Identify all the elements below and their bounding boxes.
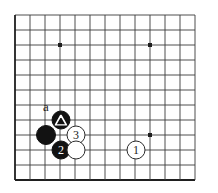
white-stone-plain <box>67 141 86 160</box>
white-stone-1: 1 <box>127 141 146 160</box>
star-point <box>148 43 152 47</box>
star-point <box>148 133 152 137</box>
point-label-a: a <box>43 100 49 113</box>
stone-number-label: 1 <box>133 144 139 156</box>
stone-number-label: 2 <box>58 144 64 156</box>
black-stone-plain <box>36 125 56 145</box>
go-board-grid <box>0 0 218 193</box>
stone-number-label: 3 <box>73 129 79 141</box>
triangle-marker-icon <box>55 114 68 125</box>
black-stone-marked-triangle <box>52 111 71 130</box>
go-diagram: a231 <box>0 0 218 193</box>
star-point <box>58 43 62 47</box>
